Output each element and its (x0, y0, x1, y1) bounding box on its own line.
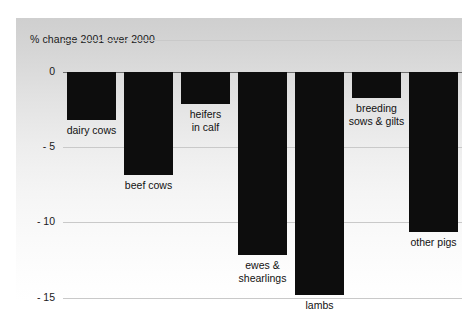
bar-category-label: lambs (274, 299, 365, 312)
bar (67, 72, 116, 120)
bar (238, 72, 287, 255)
bar (409, 72, 458, 232)
bar (181, 72, 230, 104)
plot-area: 0- 5- 10- 15dairy cowsbeef cowsheifers i… (63, 58, 462, 310)
gridline-minus15 (63, 298, 462, 299)
y-axis-tick-label: - 10 (15, 215, 55, 227)
chart-figure: % change 2001 over 2000 0- 5- 10- 15dair… (0, 0, 476, 317)
bar (352, 72, 401, 98)
y-axis-tick-label: 0 (15, 65, 55, 77)
chart-plot-panel: % change 2001 over 2000 0- 5- 10- 15dair… (16, 18, 462, 301)
bar-category-label: beef cows (103, 179, 194, 192)
bar-category-label: other pigs (388, 236, 476, 249)
gridline-top-rule (63, 40, 462, 41)
y-axis-tick-label: - 15 (15, 291, 55, 303)
y-axis-tick-label: - 5 (15, 140, 55, 152)
chart-title: % change 2001 over 2000 (30, 33, 155, 45)
